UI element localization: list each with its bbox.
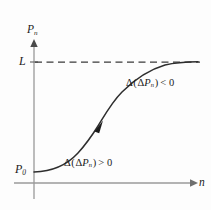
close-paren-lower: ) xyxy=(92,157,97,168)
outer-delta-symbol-lower: Δ xyxy=(64,157,71,168)
limit-value-label: L xyxy=(19,55,26,67)
relation-lower: > 0 xyxy=(98,157,113,168)
concave-up-annotation: Δ(ΔPn) > 0 xyxy=(64,158,113,169)
x-axis-arrowhead xyxy=(190,179,198,187)
initial-value-label: P0 xyxy=(15,163,26,176)
curve-direction-arrowhead-icon xyxy=(95,121,104,134)
y-axis-label: Pn xyxy=(27,24,38,37)
outer-delta-symbol-upper: Δ xyxy=(126,77,133,88)
concave-down-annotation: Δ(ΔPn) < 0 xyxy=(126,78,175,89)
close-paren-upper: ) xyxy=(154,77,159,88)
relation-upper: < 0 xyxy=(160,77,175,88)
x-axis-label: n xyxy=(199,177,205,189)
initial-value-subscript: 0 xyxy=(22,168,26,177)
y-axis-arrowhead xyxy=(30,39,37,47)
y-axis-label-symbol: P xyxy=(27,23,34,35)
sequence-convergence-figure: Pn L P0 n Δ(ΔPn) > 0 Δ(ΔPn) < 0 xyxy=(0,0,211,210)
y-axis-label-subscript: n xyxy=(34,29,38,37)
